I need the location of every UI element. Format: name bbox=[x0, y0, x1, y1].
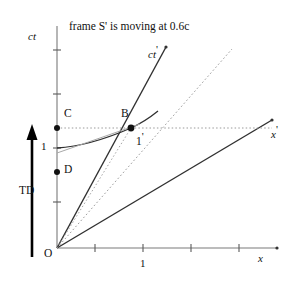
x-axis-endpoint-dot bbox=[275, 246, 278, 249]
x-prime-axis-line bbox=[57, 120, 272, 248]
one-prime-mark: ' bbox=[142, 130, 144, 142]
point-label-D: D bbox=[64, 164, 72, 176]
ct-prime-base: ct bbox=[148, 48, 156, 60]
dotted-origin-to-B-line bbox=[57, 128, 131, 248]
point-label-B: B bbox=[121, 108, 129, 120]
time-dilation-label: TD bbox=[19, 185, 34, 197]
x-prime-axis-label: x' bbox=[271, 124, 278, 140]
figure-title: frame S' is moving at 0.6c bbox=[69, 21, 189, 33]
spacetime-diagram-figure: frame S' is moving at 0.6c ct x ct' x' O… bbox=[0, 0, 295, 281]
ct-axis-label: ct bbox=[28, 31, 36, 42]
ct-axis-tick-label-one: 1 bbox=[41, 141, 47, 152]
origin-label: O bbox=[44, 248, 52, 260]
point-C-dot bbox=[54, 125, 60, 131]
light-cone-line bbox=[57, 49, 232, 248]
point-label-one-prime: 1' bbox=[136, 131, 144, 147]
ct-prime-axis-label: ct' bbox=[148, 44, 158, 60]
ct-prime-mark: ' bbox=[156, 43, 158, 55]
point-D-dot bbox=[54, 169, 60, 175]
x-axis-label: x bbox=[258, 253, 263, 264]
x-prime-mark: ' bbox=[276, 123, 278, 135]
x-axis-tick-label-one: 1 bbox=[140, 258, 146, 269]
x-prime-endpoint-dot bbox=[270, 118, 273, 121]
point-B-dot bbox=[128, 125, 135, 132]
ct-prime-endpoint-dot bbox=[164, 45, 167, 48]
point-label-C: C bbox=[64, 108, 72, 120]
